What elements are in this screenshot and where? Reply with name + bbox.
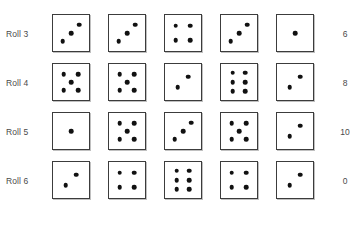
die-pip: [174, 187, 179, 192]
die-pip: [243, 80, 248, 85]
die-face-3[interactable]: [220, 14, 258, 52]
die-pip: [174, 24, 179, 29]
die-pip: [118, 137, 123, 142]
die-face-2[interactable]: [276, 63, 314, 101]
die-pip: [132, 137, 137, 142]
die-pip: [172, 137, 177, 142]
die-pip: [243, 89, 248, 94]
die-pip: [230, 171, 235, 176]
die-pip: [69, 80, 74, 85]
die-face-1[interactable]: [52, 112, 90, 150]
dice-strip: [52, 161, 318, 201]
die-pip: [62, 88, 67, 93]
die-pip: [244, 121, 249, 126]
die-pip: [69, 31, 74, 36]
die-face-2[interactable]: [276, 161, 314, 199]
roll-row: Roll 36: [0, 12, 364, 56]
die-pip: [228, 39, 233, 44]
die-pip: [187, 178, 192, 183]
die-pip: [293, 31, 298, 36]
die-pip: [244, 171, 249, 176]
die-pip: [245, 22, 250, 27]
die-pip: [187, 168, 192, 173]
die-pip: [181, 129, 186, 134]
die-pip: [132, 88, 137, 93]
die-pip: [118, 72, 123, 77]
die-pip: [174, 178, 179, 183]
dice-strip: [52, 14, 318, 54]
die-face-5[interactable]: [220, 112, 258, 150]
die-pip: [69, 129, 74, 134]
roll-label: Roll 3: [6, 29, 50, 39]
roll-label: Roll 4: [6, 78, 50, 88]
roll-value: 0: [334, 176, 356, 186]
die-pip: [186, 74, 191, 79]
die-pip: [63, 183, 68, 188]
die-pip: [132, 171, 137, 176]
die-pip: [244, 137, 249, 142]
die-pip: [287, 134, 292, 139]
die-pip: [243, 70, 248, 75]
die-face-4[interactable]: [164, 14, 202, 52]
roll-label: Roll 5: [6, 127, 50, 137]
die-pip: [132, 121, 137, 126]
die-pip: [287, 183, 292, 188]
die-pip: [230, 89, 235, 94]
roll-value: 6: [334, 29, 356, 39]
die-pip: [237, 129, 242, 134]
die-pip: [230, 80, 235, 85]
die-face-4[interactable]: [108, 161, 146, 199]
die-pip: [118, 88, 123, 93]
roll-label: Roll 6: [6, 176, 50, 186]
die-pip: [188, 38, 193, 43]
roll-value: 8: [334, 78, 356, 88]
die-pip: [287, 85, 292, 90]
die-face-3[interactable]: [164, 112, 202, 150]
die-pip: [77, 22, 82, 27]
die-pip: [132, 185, 137, 190]
dice-strip: [52, 112, 318, 152]
die-pip: [125, 80, 130, 85]
die-face-5[interactable]: [108, 63, 146, 101]
die-pip: [133, 22, 138, 27]
die-face-4[interactable]: [220, 161, 258, 199]
dice-strip: [52, 63, 318, 103]
die-pip: [189, 120, 194, 125]
die-pip: [188, 24, 193, 29]
dice-roll-table: Roll 36Roll 48Roll 510Roll 60: [0, 0, 364, 226]
die-face-6[interactable]: [164, 161, 202, 199]
roll-row: Roll 60: [0, 159, 364, 203]
die-face-5[interactable]: [108, 112, 146, 150]
roll-row: Roll 510: [0, 110, 364, 154]
die-pip: [116, 39, 121, 44]
die-pip: [175, 85, 180, 90]
die-face-5[interactable]: [52, 63, 90, 101]
die-pip: [132, 72, 137, 77]
die-pip: [230, 137, 235, 142]
die-face-1[interactable]: [276, 14, 314, 52]
die-pip: [174, 168, 179, 173]
die-face-6[interactable]: [220, 63, 258, 101]
die-pip: [118, 185, 123, 190]
roll-row: Roll 48: [0, 61, 364, 105]
die-pip: [118, 171, 123, 176]
die-pip: [76, 88, 81, 93]
die-pip: [298, 74, 303, 79]
die-pip: [125, 31, 130, 36]
die-pip: [244, 185, 249, 190]
die-pip: [230, 185, 235, 190]
die-pip: [230, 70, 235, 75]
die-face-3[interactable]: [108, 14, 146, 52]
die-face-3[interactable]: [52, 14, 90, 52]
die-pip: [118, 121, 123, 126]
die-pip: [298, 172, 303, 177]
die-face-2[interactable]: [276, 112, 314, 150]
die-pip: [74, 172, 79, 177]
die-pip: [76, 72, 81, 77]
roll-value: 10: [334, 127, 356, 137]
die-pip: [298, 123, 303, 128]
die-pip: [174, 38, 179, 43]
die-face-2[interactable]: [52, 161, 90, 199]
die-face-2[interactable]: [164, 63, 202, 101]
die-pip: [62, 72, 67, 77]
